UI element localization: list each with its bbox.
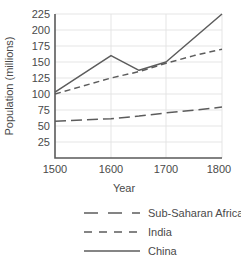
vertical-gridlines	[111, 14, 222, 158]
x-tick-1600: 1600	[99, 163, 123, 175]
x-tick-1500: 1500	[43, 163, 67, 175]
x-tick-1700: 1700	[154, 163, 178, 175]
legend-item-sub-saharan-africa: Sub-Saharan Africa	[84, 205, 241, 221]
legend-item-india: India	[84, 224, 172, 240]
y-tick-100: 100	[32, 88, 50, 100]
legend-label-china: China	[148, 245, 177, 257]
y-tick-200: 200	[32, 24, 50, 36]
legend-swatch-long-dash	[84, 207, 140, 219]
y-tick-150: 150	[32, 56, 50, 68]
y-tick-125: 125	[32, 72, 50, 84]
legend-swatch-solid	[84, 245, 140, 257]
x-tick-1800: 1800	[207, 163, 231, 175]
chart-plot-area: 225 200 175 150 125 100 75 50 25 1500 16…	[0, 0, 241, 260]
y-tick-25: 25	[38, 136, 50, 148]
y-tick-225: 225	[32, 8, 50, 20]
y-tick-50: 50	[38, 120, 50, 132]
population-line-chart-figure: 225 200 175 150 125 100 75 50 25 1500 16…	[0, 0, 241, 260]
y-tick-75: 75	[38, 104, 50, 116]
legend-swatch-short-dash	[84, 226, 140, 238]
horizontal-gridlines	[55, 14, 222, 142]
series-line-sub-saharan-africa	[55, 107, 222, 121]
y-tick-labels: 225 200 175 150 125 100 75 50 25	[32, 8, 50, 148]
legend-label-india: India	[148, 226, 172, 238]
series-line-india	[55, 49, 222, 94]
y-axis-title: Population (millions)	[3, 36, 15, 135]
legend-label-sub-saharan-africa: Sub-Saharan Africa	[148, 207, 241, 219]
x-axis-title: Year	[113, 182, 136, 194]
x-tick-labels: 1500 1600 1700 1800	[43, 163, 231, 175]
series-line-china	[55, 14, 222, 92]
legend-item-china: China	[84, 243, 177, 259]
y-tick-175: 175	[32, 40, 50, 52]
